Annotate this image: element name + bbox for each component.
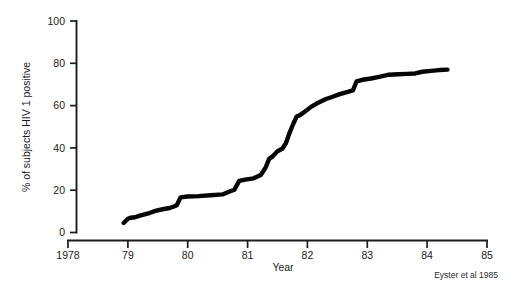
y-tick-label-80: 80 — [53, 57, 65, 69]
source-credit: Eyster et al 1985 — [434, 270, 498, 280]
x-axis-ticks — [68, 241, 487, 249]
y-axis-ticks — [70, 21, 77, 233]
y-tick-label-20: 20 — [53, 184, 65, 196]
y-tick-label-60: 60 — [53, 99, 65, 111]
x-tick-label-1978: 1978 — [56, 249, 80, 261]
x-axis: 197879808182838485 Year — [56, 241, 493, 274]
series-hiv1-positive-line — [124, 70, 448, 223]
x-tick-label-1985: 85 — [481, 249, 493, 261]
x-tick-label-1979: 79 — [122, 249, 134, 261]
x-tick-label-1983: 83 — [361, 249, 373, 261]
y-tick-label-100: 100 — [47, 15, 65, 27]
x-tick-label-1982: 82 — [302, 249, 314, 261]
y-tick-label-40: 40 — [53, 142, 65, 154]
chart-figure: 020406080100 % of subjects HIV 1 positiv… — [0, 0, 517, 293]
data-series-group — [124, 70, 448, 223]
y-axis-tick-labels: 020406080100 — [47, 15, 65, 239]
x-axis-tick-labels: 197879808182838485 — [56, 249, 493, 261]
x-tick-label-1984: 84 — [421, 249, 433, 261]
y-axis-title: % of subjects HIV 1 positive — [20, 62, 32, 192]
chart-canvas: 020406080100 % of subjects HIV 1 positiv… — [0, 0, 517, 293]
x-axis-title: Year — [272, 261, 294, 273]
y-axis: 020406080100 % of subjects HIV 1 positiv… — [20, 15, 77, 239]
x-tick-label-1981: 81 — [242, 249, 254, 261]
y-tick-label-0: 0 — [59, 226, 65, 238]
x-tick-label-1980: 80 — [182, 249, 194, 261]
